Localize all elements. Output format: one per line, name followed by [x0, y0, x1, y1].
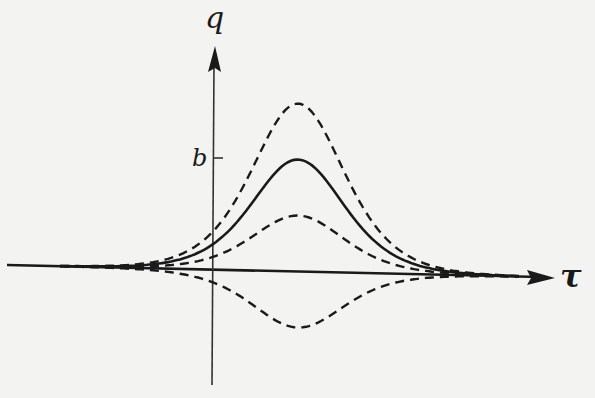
b-tick-label: b	[192, 144, 207, 172]
q-axis-arrow-icon	[208, 46, 221, 72]
q-axis-label: q	[205, 0, 224, 35]
q-axis	[208, 46, 221, 385]
curve-0	[60, 160, 519, 277]
tau-axis-label: τ	[560, 257, 582, 295]
curves	[60, 104, 519, 328]
phase-diagram: q b τ	[0, 0, 595, 398]
tau-axis-arrow-icon	[527, 270, 555, 285]
curve-1	[60, 104, 519, 276]
curve-2	[60, 216, 519, 277]
